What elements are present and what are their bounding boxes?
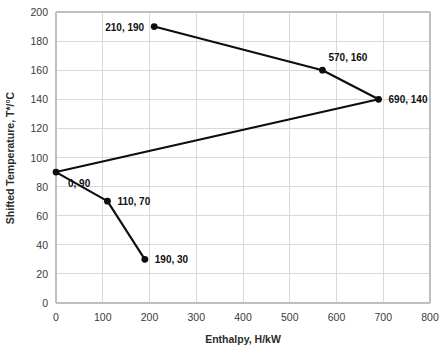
y-tick-label: 120 bbox=[30, 122, 48, 134]
x-tick-label: 0 bbox=[53, 311, 59, 323]
y-tick-label: 200 bbox=[30, 6, 48, 18]
x-tick-label: 400 bbox=[234, 311, 252, 323]
data-point-label: 210, 190 bbox=[105, 22, 144, 33]
data-point-label: 690, 140 bbox=[389, 94, 428, 105]
x-tick-label: 700 bbox=[374, 311, 392, 323]
y-tick-label: 0 bbox=[42, 297, 48, 309]
data-point-marker bbox=[151, 23, 158, 30]
y-tick-label: 180 bbox=[30, 35, 48, 47]
data-point-label: 570, 160 bbox=[328, 52, 367, 63]
y-tick-labels: 020406080100120140160180200 bbox=[30, 6, 48, 309]
y-tick-label: 40 bbox=[36, 239, 48, 251]
chart-canvas: 0100200300400500600700800 02040608010012… bbox=[0, 0, 443, 352]
grand-composite-curve-chart: 0100200300400500600700800 02040608010012… bbox=[0, 0, 443, 352]
x-axis-title: Enthalpy, H/kW bbox=[205, 333, 281, 345]
data-point-marker bbox=[375, 96, 382, 103]
x-tick-label: 600 bbox=[328, 311, 346, 323]
x-tick-labels: 0100200300400500600700800 bbox=[53, 311, 439, 323]
x-tick-label: 200 bbox=[141, 311, 159, 323]
x-tick-label: 500 bbox=[281, 311, 299, 323]
data-point-marker bbox=[141, 256, 148, 263]
y-tick-label: 140 bbox=[30, 93, 48, 105]
data-point-marker bbox=[319, 67, 326, 74]
x-tick-label: 800 bbox=[421, 311, 439, 323]
y-tick-label: 60 bbox=[36, 210, 48, 222]
y-axis-title: Shifted Temperature, T*/°C bbox=[4, 91, 16, 224]
y-tick-label: 160 bbox=[30, 64, 48, 76]
data-point-label: 0, 90 bbox=[68, 178, 91, 189]
data-point-label: 190, 30 bbox=[155, 254, 189, 265]
y-tick-label: 80 bbox=[36, 181, 48, 193]
y-tick-label: 100 bbox=[30, 152, 48, 164]
data-point-label: 110, 70 bbox=[117, 196, 150, 207]
x-tick-label: 300 bbox=[187, 311, 205, 323]
data-point-marker bbox=[104, 198, 111, 205]
y-tick-label: 20 bbox=[36, 268, 48, 280]
x-tick-label: 100 bbox=[94, 311, 112, 323]
data-point-marker bbox=[53, 169, 60, 176]
